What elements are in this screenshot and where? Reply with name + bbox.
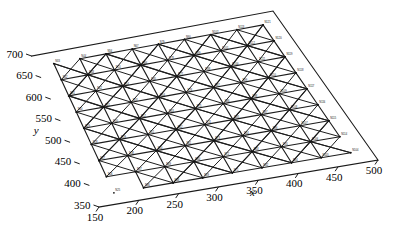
node-id-label: N76	[188, 88, 193, 92]
node-id-label: N73	[215, 136, 220, 140]
node-id-label: N110	[270, 73, 277, 77]
node-id-label: N56	[107, 49, 112, 53]
node-id-label: N78	[169, 56, 174, 60]
node-id-label: N118	[297, 68, 304, 72]
node-id-label: N94	[293, 158, 298, 162]
node-id-label: N62	[178, 125, 183, 129]
node-id-label: N60	[195, 157, 200, 161]
y-axis-tick	[94, 205, 100, 207]
structure-members	[54, 25, 351, 188]
diagonal-brace	[99, 161, 136, 172]
node-id-label: N86	[225, 99, 230, 103]
node-id-label: N114	[341, 132, 348, 136]
y-axis-tick-label: 500	[45, 134, 62, 146]
y-axis-tick	[74, 162, 80, 164]
node-id-label: N105	[323, 153, 330, 157]
node-id-label: N27	[100, 156, 105, 160]
x-axis-tick-label: 500	[366, 164, 383, 176]
node-id-label: N102	[212, 30, 219, 34]
structure-nodes	[53, 24, 352, 194]
node-id-label: N119	[286, 52, 293, 56]
node-id-label: N36	[145, 183, 150, 187]
node-id-label: N33	[55, 59, 60, 63]
node-id-label: N87	[215, 83, 220, 87]
node-id-label: N101	[222, 46, 229, 50]
node-id-label: N25	[115, 188, 120, 192]
node-id-label: N116	[319, 100, 326, 104]
node-id-label: N75	[197, 104, 202, 108]
node-id-label: N104	[352, 148, 359, 152]
node-id-label: N67	[134, 44, 139, 48]
node-id-label: N44	[81, 54, 86, 58]
node-id-label: N83	[254, 147, 259, 151]
node-id-label: N52	[141, 114, 146, 118]
y-axis-tick-label: 700	[7, 48, 24, 60]
node-id-label: N113	[238, 25, 245, 29]
node-id-label: N63	[169, 109, 174, 113]
node-id-label: N79	[160, 40, 165, 44]
x-axis-tick-label: 450	[326, 171, 343, 183]
node-id-label: N112	[249, 41, 256, 45]
y-axis-tick	[26, 54, 32, 56]
node-id-label: N111	[259, 57, 265, 61]
node-id-label: N39	[121, 135, 126, 139]
y-axis-tick-label: 600	[26, 91, 43, 103]
figure-3d-structure-plot: N33N44N56N67N79N90N102N113N121N32N43N55N…	[0, 0, 395, 229]
node-id-label: N32	[63, 75, 68, 79]
node-id-label: N107	[301, 121, 308, 125]
y-axis-tick-label: 350	[74, 199, 91, 211]
node-id-label: N120	[275, 36, 282, 40]
node-id-label: N53	[133, 98, 138, 102]
node-id-label: N74	[206, 120, 211, 124]
node-id-label: N82	[263, 163, 268, 167]
node-id-label: N115	[330, 116, 337, 120]
node-id-label: N40	[113, 119, 118, 123]
node-id-label: N28	[93, 140, 98, 144]
node-id-label: N77	[178, 72, 183, 76]
node-id-label: N49	[166, 162, 171, 166]
node-id-label: N90	[186, 35, 191, 39]
node-id-label: N109	[280, 89, 287, 93]
y-axis-tick	[65, 140, 71, 142]
node-id-label: N84	[244, 131, 249, 135]
y-axis-tick	[55, 119, 61, 121]
node-id-label: N72	[225, 152, 230, 156]
node-id-label: N59	[204, 173, 209, 177]
node-id-label: N95	[283, 142, 288, 146]
node-id-label: N64	[160, 93, 165, 97]
plot-svg: N33N44N56N67N79N90N102N113N121N32N43N55N…	[0, 0, 395, 229]
y-axis-tick-label: 650	[16, 69, 33, 81]
x-axis-tick-label: 300	[206, 191, 223, 203]
node-id-label: N41	[105, 103, 110, 107]
node-id-label: N89	[196, 51, 201, 55]
node-id-label: N99	[242, 78, 247, 82]
node-id-label: N42	[97, 86, 102, 90]
y-axis-tick	[45, 97, 51, 99]
x-axis-tick-label: 150	[87, 211, 104, 223]
diagonal-brace	[136, 172, 174, 183]
node-id-label: N26	[108, 172, 113, 176]
node-id-label: N30	[78, 107, 83, 111]
x-axis-title: x	[249, 186, 255, 198]
y-axis-tick	[36, 76, 42, 78]
node-id-label: N98	[253, 94, 258, 98]
node-id-label: N50	[158, 146, 163, 150]
node-id-label: N61	[187, 141, 192, 145]
node-id-label: N51	[149, 130, 154, 134]
node-id-label: N106	[312, 137, 319, 141]
node-id-label: N117	[308, 84, 315, 88]
node-id-label: N96	[273, 126, 278, 130]
node-id-label: N31	[70, 91, 75, 95]
node-id-label: N97	[263, 110, 268, 114]
node-id-label: N100	[232, 62, 239, 66]
x-axis-tick-label: 400	[286, 177, 303, 189]
y-axis-tick-label: 550	[35, 112, 52, 124]
x-axis-tick-label: 250	[166, 198, 183, 210]
node-id-label: N37	[137, 167, 142, 171]
node-id-label: N108	[291, 105, 298, 109]
node-id-label: N55	[116, 65, 121, 69]
y-axis-tick-label: 400	[64, 177, 81, 189]
node-id-label: N66	[142, 61, 147, 65]
node-id-label: N29	[85, 124, 90, 128]
node-id-label: N38	[129, 151, 134, 155]
